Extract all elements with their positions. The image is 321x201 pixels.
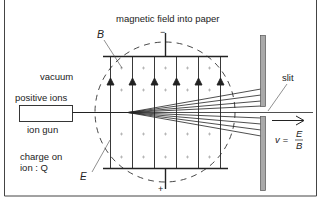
- slit-plate-lower: [261, 117, 266, 191]
- velocity-denominator: B: [296, 140, 303, 151]
- velocity-numerator: E: [296, 128, 303, 139]
- positive-terminal-sign: +: [158, 184, 163, 194]
- b-leader: [104, 40, 122, 68]
- ion-gun-label: ion gun: [27, 124, 58, 135]
- negative-terminal-sign: −: [160, 27, 165, 37]
- title-label: magnetic field into paper: [116, 13, 220, 24]
- slit-label: slit: [282, 72, 294, 83]
- velocity-lhs: v =: [275, 134, 288, 145]
- ion-gun-box: [20, 106, 73, 122]
- velocity-selector-diagram: magnetic field into paper − +: [0, 0, 321, 201]
- charge-label-line1: charge on: [20, 151, 62, 162]
- ion-beam-fan: [128, 89, 313, 136]
- e-leader: [92, 140, 110, 172]
- charge-label-line2: ion : Q: [20, 162, 48, 173]
- positive-ions-label: positive ions: [15, 92, 68, 103]
- slit-plate-upper: [261, 36, 266, 107]
- slit-leader: [268, 84, 287, 111]
- magnetic-field-label: B: [97, 28, 104, 40]
- electric-field-label: E: [80, 171, 87, 182]
- vacuum-label: vacuum: [40, 71, 73, 82]
